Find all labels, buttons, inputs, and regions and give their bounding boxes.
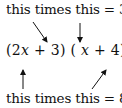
arrow-top-left-icon — [33, 22, 47, 42]
arrow-bottom-right-icon — [92, 70, 106, 89]
arrows-layer — [0, 0, 122, 108]
